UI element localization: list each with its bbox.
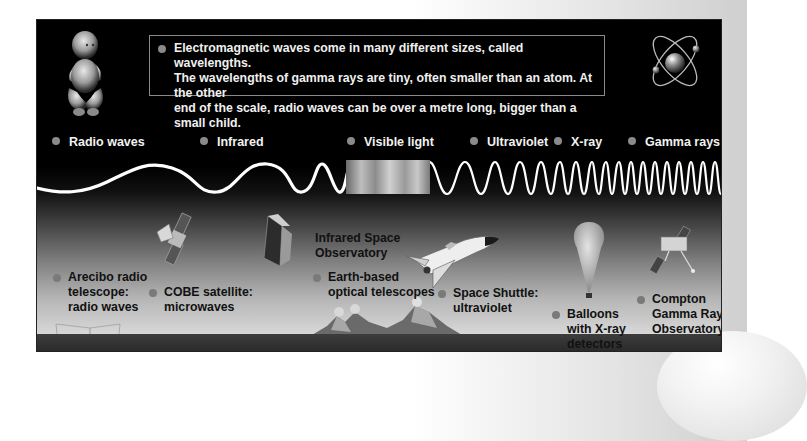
bullet-icon	[628, 137, 636, 145]
band-label-xray: X-ray	[554, 135, 602, 149]
visible-light-band	[346, 160, 430, 194]
intro-line-3: end of the scale, radio waves can be ove…	[174, 101, 596, 131]
band-label-gamma: Gamma rays	[628, 135, 720, 149]
bullet-icon	[52, 137, 60, 145]
intro-line-1: Electromagnetic waves come in many diffe…	[174, 41, 596, 71]
intro-line-2: The wavelengths of gamma rays are tiny, …	[174, 71, 596, 101]
bullet-icon	[313, 274, 321, 282]
bullet-icon	[554, 137, 562, 145]
bullet-icon	[438, 290, 446, 298]
band-label-ultraviolet: Ultraviolet	[470, 135, 548, 149]
bullet-icon	[470, 137, 478, 145]
compton-observatory-icon	[645, 225, 701, 279]
band-label-visible: Visible light	[347, 135, 434, 149]
bullet-icon	[53, 274, 61, 282]
cobe-satellite-icon	[155, 42, 203, 100]
atom-icon	[644, 30, 706, 92]
bullet-icon	[149, 289, 157, 297]
label-balloons: Balloons with X-ray detectors	[567, 307, 626, 352]
bullet-icon	[552, 311, 560, 319]
band-label-radio: Radio waves	[52, 135, 145, 149]
bullet-icon	[200, 137, 208, 145]
spectrum-panel: Electromagnetic waves come in many diffe…	[36, 19, 722, 352]
intro-text-box: Electromagnetic waves come in many diffe…	[149, 35, 605, 96]
balloon-icon	[569, 220, 609, 302]
band-label-infrared: Infrared	[200, 135, 264, 149]
bullet-icon	[637, 296, 645, 304]
cobe-satellite-icon	[155, 212, 203, 270]
label-infrared-space-observatory: Infrared Space Observatory	[315, 231, 400, 261]
label-cobe: COBE satellite: microwaves	[164, 285, 253, 315]
bullet-icon	[347, 137, 355, 145]
label-arecibo: Arecibo radio telescope: radio waves	[68, 270, 147, 315]
label-compton: Compton Gamma Ray Observatory	[652, 292, 722, 337]
label-earth-based-telescopes: Earth-based optical telescopes	[328, 270, 435, 300]
label-space-shuttle: Space Shuttle: ultraviolet	[453, 286, 538, 316]
baby-icon	[55, 28, 111, 123]
infrared-space-observatory-icon	[260, 212, 296, 270]
